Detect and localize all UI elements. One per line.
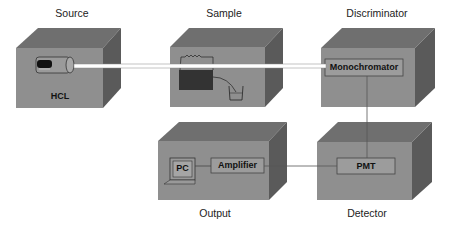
output-label: Output <box>165 207 265 219</box>
hcl-label: HCL <box>45 91 75 101</box>
diagram-canvas <box>0 0 450 233</box>
light-beam <box>74 64 326 68</box>
sample-label: Sample <box>174 7 274 19</box>
hcl-lamp-icon <box>36 57 74 73</box>
monochromator-label: Monochromator <box>325 62 403 72</box>
detector-label: Detector <box>317 207 417 219</box>
amplifier-label: Amplifier <box>211 160 264 170</box>
discriminator-label: Discriminator <box>327 7 427 19</box>
pc-label: PC <box>173 163 192 173</box>
source-label: Source <box>22 7 122 19</box>
pmt-label: PMT <box>337 161 395 171</box>
